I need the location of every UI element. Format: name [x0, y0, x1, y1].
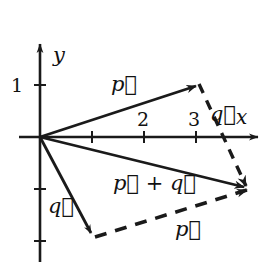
vector-label-q-lower-left-text: q⃗ — [48, 194, 74, 218]
x-tick-label-2: 2 — [137, 108, 149, 130]
vector-diagram-figure: y x 1 2 3 p⃗ q⃗ p⃗ + q⃗ q⃗ — [0, 0, 269, 262]
vector-label-p-upper-text: p⃗ — [111, 72, 137, 96]
vector-label-p-plus-q-text: p⃗ + q⃗ — [113, 171, 196, 195]
x-tick-label-3: 3 — [188, 108, 200, 130]
vector-q — [40, 137, 91, 233]
vector-label-p-plus-q: p⃗ + q⃗ — [113, 171, 196, 195]
axis-group — [19, 44, 258, 262]
vector-label-p-dashed-text: p⃗ — [175, 217, 201, 241]
vector-label-q-lower-left: q⃗ — [48, 194, 74, 218]
vector-label-p-dashed: p⃗ — [175, 217, 201, 241]
vector-diagram-svg: y x 1 2 3 p⃗ q⃗ p⃗ + q⃗ q⃗ — [0, 0, 269, 262]
vector-p-dashed — [95, 190, 247, 237]
vector-q-dashed — [199, 84, 246, 186]
y-tick-label-1: 1 — [11, 74, 23, 96]
axis-label-y: y — [52, 43, 66, 67]
vector-label-q-dashed: q⃗ — [210, 102, 236, 126]
label-group: y x 1 2 3 p⃗ q⃗ p⃗ + q⃗ q⃗ — [11, 43, 247, 241]
vector-label-p-upper: p⃗ — [111, 72, 137, 96]
vector-label-q-dashed-text: q⃗ — [210, 102, 236, 126]
axis-label-x: x — [236, 105, 247, 129]
